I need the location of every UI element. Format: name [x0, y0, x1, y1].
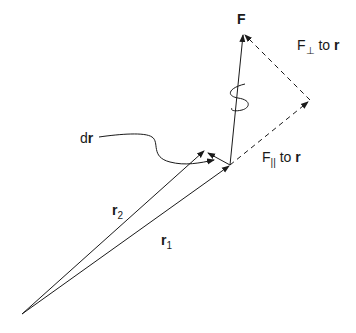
- force-vector: [230, 35, 243, 165]
- dr-pointer-curve: [99, 134, 214, 164]
- perp-vec: r: [334, 37, 339, 53]
- par-vec: r: [295, 149, 300, 165]
- coil-icon: [230, 84, 248, 111]
- dr-vector: [208, 153, 230, 165]
- r2-sub: 2: [117, 210, 123, 221]
- dr-vec: r: [88, 130, 93, 146]
- f-perpendicular-label: F⊥ to r: [297, 38, 339, 52]
- perp-symbol: ⊥: [306, 45, 315, 56]
- dr-label: dr: [80, 131, 93, 145]
- perp-prefix: F: [297, 37, 306, 53]
- r1-label: r1: [161, 233, 172, 247]
- r1-sub: 1: [166, 240, 172, 251]
- dr-prefix: d: [80, 130, 88, 146]
- r2-vector: [22, 151, 204, 314]
- par-symbol: ||: [271, 157, 276, 168]
- par-suffix: to: [276, 149, 295, 165]
- perp-suffix: to: [315, 37, 334, 53]
- r2-label: r2: [112, 203, 123, 217]
- force-label-text: F: [237, 11, 246, 27]
- force-label: F: [237, 12, 246, 26]
- f-parallel-label: F|| to r: [262, 150, 301, 164]
- par-prefix: F: [262, 149, 271, 165]
- r1-vector: [22, 166, 229, 314]
